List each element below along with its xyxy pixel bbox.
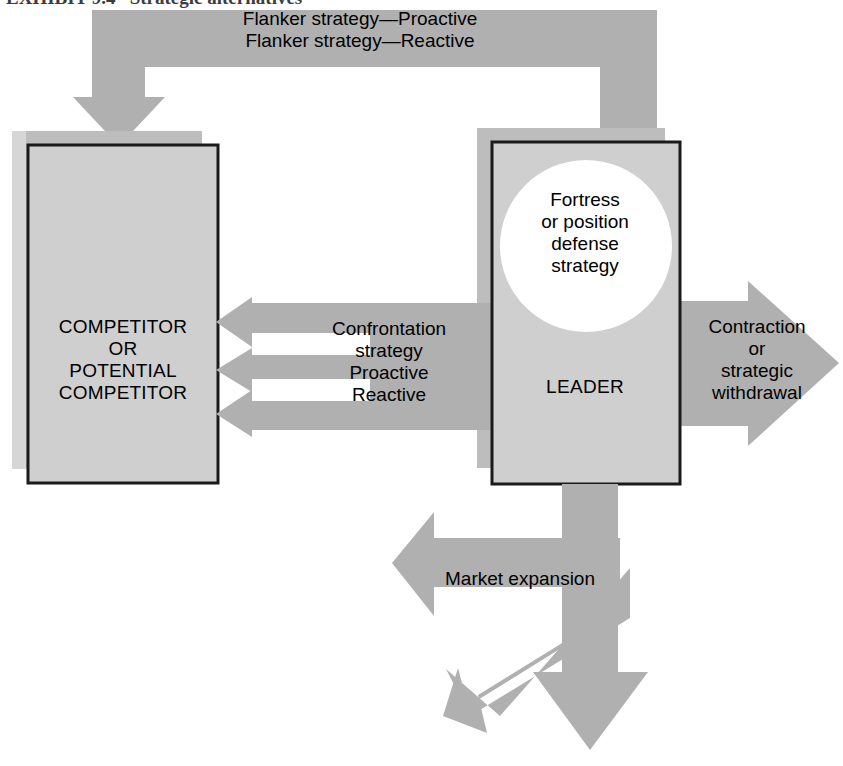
defense-strategy-circle[interactable]	[500, 160, 672, 332]
strategic-alternatives-diagram	[0, 0, 843, 766]
confrontation-strategy-arrow[interactable]	[216, 297, 502, 437]
competitor-box[interactable]	[28, 145, 218, 483]
figure-canvas: EXHIBIT 9.4 Strategic alternatives	[0, 0, 843, 766]
contraction-or-strategic-withdrawal-arrow[interactable]	[668, 281, 839, 446]
flanker-strategy-arrow	[73, 10, 657, 146]
